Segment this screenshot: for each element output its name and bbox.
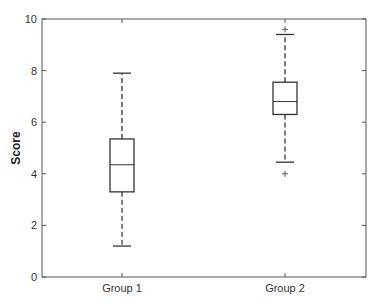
y-tick-label: 0 [31,271,37,283]
y-tick-label: 8 [31,65,37,77]
y-axis-title: Score [9,131,23,165]
x-tick-label: Group 2 [265,282,305,294]
iqr-box [110,139,134,192]
y-tick-label: 10 [25,13,37,25]
y-tick-label: 6 [31,116,37,128]
plot-frame [42,19,366,277]
box-2 [273,26,297,176]
box-plot-chart: 0246810 Group 1Group 2 Score [0,0,384,307]
box-series [110,26,297,246]
iqr-box [273,82,297,114]
y-tick-label: 2 [31,219,37,231]
box-1 [110,73,134,246]
axes-box [42,19,366,277]
x-tick-label: Group 1 [102,282,142,294]
y-axis-ticks: 0246810 [25,13,366,283]
y-tick-label: 4 [31,168,37,180]
